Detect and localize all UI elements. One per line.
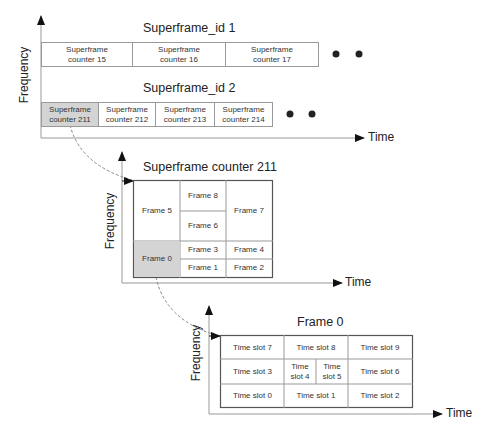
time-slot-0-cell: Time slot 0	[221, 384, 284, 407]
cell-text: counter 211	[49, 115, 91, 124]
cell-text: counter 214	[222, 115, 264, 124]
superframe-counter-211-title: Superframe counter 211	[143, 160, 277, 174]
level3-x-axis-label: Time	[446, 406, 472, 420]
frame-2-cell: Frame 2	[226, 259, 272, 277]
cell-text: Superframe	[66, 45, 108, 54]
superframe-counter-16-cell: Superframecounter 16	[133, 43, 225, 66]
cell-text: counter 212	[106, 115, 148, 124]
time-slot-8-cell: Time slot 8	[284, 336, 348, 359]
cell-text: Superframe	[49, 105, 91, 114]
time-slot-2-cell: Time slot 2	[348, 384, 412, 407]
cell-text: slot 5	[322, 372, 341, 381]
level3-y-axis-label: Frequency	[189, 323, 203, 383]
frame-8-cell: Frame 8	[180, 181, 226, 211]
cell-text: Superframe	[223, 105, 265, 114]
cell-text: counter 213	[164, 115, 206, 124]
time-slot-9-cell: Time slot 9	[348, 336, 412, 359]
ellipsis-dots-row1	[333, 51, 363, 58]
time-slot-4-cell: Timeslot 4	[284, 359, 316, 384]
cell-text: slot 4	[290, 372, 309, 381]
frame-0-cell: Frame 0	[134, 241, 180, 277]
zoom-connector-2	[156, 277, 216, 335]
cell-text: Superframe	[251, 45, 293, 54]
cell-text: counter 16	[160, 55, 198, 64]
frame-6-cell: Frame 6	[180, 211, 226, 241]
frame-7-cell: Frame 7	[226, 181, 272, 241]
level2-x-axis-label: Time	[345, 275, 371, 289]
frame-4-cell: Frame 4	[226, 241, 272, 259]
cell-text: Superframe	[158, 45, 200, 54]
time-slot-7-cell: Time slot 7	[221, 336, 284, 359]
superframe-counter-15-cell: Superframecounter 15	[42, 43, 132, 66]
cell-text: Time	[323, 362, 340, 371]
cell-text: counter 17	[253, 55, 291, 64]
level2-y-axis-label: Frequency	[103, 191, 117, 251]
time-slot-5-cell: Timeslot 5	[316, 359, 348, 384]
zoom-connector-1	[70, 125, 132, 180]
level1-y-axis-label: Frequency	[17, 45, 31, 105]
time-slot-3-cell: Time slot 3	[221, 359, 284, 384]
time-slot-6-cell: Time slot 6	[348, 359, 412, 384]
ellipsis-dots-row2	[287, 111, 316, 118]
superframe-counter-211-cell: Superframecounter 211	[42, 103, 98, 126]
frame-1-cell: Frame 1	[180, 259, 226, 277]
time-slot-1-cell: Time slot 1	[284, 384, 348, 407]
cell-text: Time	[291, 362, 308, 371]
cell-text: counter 15	[68, 55, 106, 64]
frame-3-cell: Frame 3	[180, 241, 226, 259]
superframe-counter-17-cell: Superframecounter 17	[226, 43, 318, 66]
frame-0-title: Frame 0	[297, 315, 344, 329]
frame-5-cell: Frame 5	[134, 181, 180, 241]
superframe-counter-212-cell: Superframecounter 212	[99, 103, 155, 126]
cell-text: Superframe	[106, 105, 148, 114]
superframe-counter-213-cell: Superframecounter 213	[156, 103, 214, 126]
superframe-counter-214-cell: Superframecounter 214	[215, 103, 272, 126]
superframe-id-1-title: Superframe_id 1	[143, 21, 235, 35]
superframe-id-2-title: Superframe_id 2	[143, 81, 235, 95]
level1-x-axis-label: Time	[368, 130, 394, 144]
cell-text: Superframe	[164, 105, 206, 114]
